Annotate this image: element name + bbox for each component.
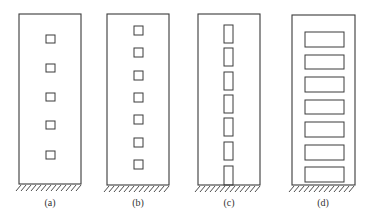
wall-opening xyxy=(224,166,233,185)
wall-opening xyxy=(224,95,233,113)
wall-panel-c xyxy=(195,14,260,192)
wall-opening xyxy=(46,93,55,101)
wall-opening xyxy=(46,35,55,43)
caption-d: (d) xyxy=(303,197,343,208)
wall-opening xyxy=(134,93,143,102)
wall-opening xyxy=(134,160,143,169)
caption-b: (b) xyxy=(118,197,158,208)
diagram-canvas xyxy=(0,0,371,219)
wall-opening xyxy=(224,48,233,66)
fixed-support-hatch-icon xyxy=(104,186,169,192)
wall-opening xyxy=(224,72,233,90)
wall-opening xyxy=(305,55,344,69)
wall-opening xyxy=(305,32,344,47)
wall-opening xyxy=(224,25,233,43)
wall-panel-a xyxy=(16,14,81,191)
wall-opening xyxy=(224,118,233,136)
wall-opening xyxy=(134,138,143,147)
wall-opening xyxy=(305,122,344,137)
fixed-support-hatch-icon xyxy=(195,186,260,192)
fixed-support-hatch-icon xyxy=(289,186,354,192)
wall-opening xyxy=(46,121,55,129)
wall-opening xyxy=(134,71,143,80)
wall-opening xyxy=(46,151,55,159)
wall-opening xyxy=(305,77,344,92)
wall-panel-d xyxy=(289,15,355,192)
wall-outline xyxy=(107,14,169,185)
wall-opening xyxy=(134,48,143,57)
wall-panel-b xyxy=(104,14,169,192)
wall-opening xyxy=(224,142,233,160)
wall-opening xyxy=(305,100,344,114)
wall-opening xyxy=(305,145,344,160)
wall-outline xyxy=(198,14,260,185)
wall-opening xyxy=(46,64,55,72)
wall-opening xyxy=(134,26,143,35)
fixed-support-hatch-icon xyxy=(16,185,81,191)
wall-opening xyxy=(134,115,143,124)
caption-c: (c) xyxy=(209,197,249,208)
caption-a: (a) xyxy=(30,197,70,208)
wall-opening xyxy=(305,167,344,182)
